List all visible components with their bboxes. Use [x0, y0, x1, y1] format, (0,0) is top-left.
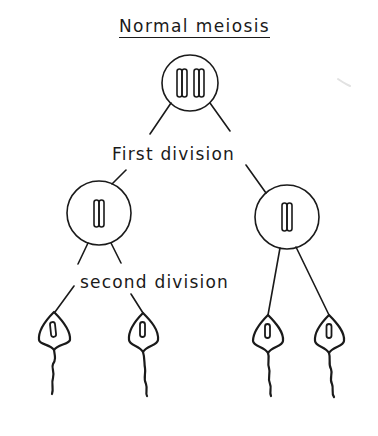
daughter-cell-right [255, 185, 319, 249]
connector-line [131, 294, 143, 313]
daughter-cell-left [67, 181, 131, 245]
parent-cell [162, 55, 218, 111]
chromosome-pair [177, 69, 187, 97]
nucleus [265, 324, 270, 338]
connector-line [268, 248, 280, 315]
diagram-title: Normal meiosis [119, 16, 270, 38]
diagram-canvas [0, 0, 378, 436]
scan-smudge [338, 79, 350, 86]
chromosome-pair [282, 203, 292, 231]
sperm-gamete [253, 315, 283, 396]
sperm-tail [52, 350, 55, 394]
connector-line [296, 247, 329, 315]
connector-line [111, 243, 121, 263]
connector-line [246, 165, 266, 193]
connector-line [150, 103, 171, 134]
nucleus [327, 324, 332, 338]
sperm-gamete [315, 315, 344, 397]
nucleus [140, 322, 145, 337]
connector-line [210, 103, 230, 131]
connector-line [55, 286, 74, 312]
first-division-label: First division [112, 144, 235, 164]
sperm-gamete [39, 312, 70, 394]
connector-line [112, 170, 126, 184]
sperm-head [253, 315, 283, 353]
cell-membrane [162, 55, 218, 111]
connector-line [78, 243, 88, 264]
chromosome-pair [194, 69, 204, 97]
sperm-gamete [129, 313, 158, 396]
sperm-head [315, 315, 344, 353]
meiosis-diagram: Normal meiosis First division second div… [0, 0, 378, 436]
chromosome-pair [94, 200, 104, 227]
sperm-tail [143, 352, 147, 396]
sperm-head [39, 312, 70, 350]
sperm-tail [329, 353, 334, 397]
second-division-label: second division [80, 272, 229, 292]
nucleus [50, 322, 57, 337]
sperm-head [129, 313, 158, 352]
sperm-tail [268, 353, 271, 396]
